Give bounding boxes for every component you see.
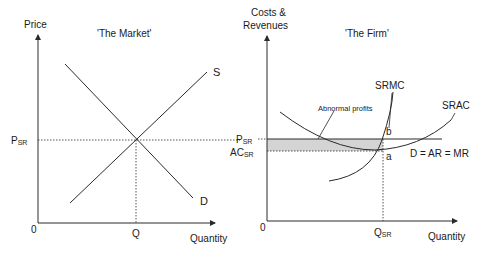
market-origin-label: 0 [31,224,37,235]
firm-y-axis-label-line2: Revenues [243,20,288,31]
srmc-label: SRMC [375,80,404,91]
market-title: 'The Market' [97,28,151,39]
supply-label: S [213,66,220,78]
demand-label: D [200,195,208,207]
srac-pointer [451,113,455,120]
market-quantity-label: Q [132,228,140,239]
supply-curve [70,72,207,203]
firm-title: 'The Firm' [345,28,389,39]
perfect-competition-diagram: Price 'The Market' S D PSR 0 Q Quantity … [0,0,482,257]
firm-ac-label: ACSR [230,147,254,158]
demand-curve [65,64,193,198]
point-a-label: a [386,151,392,162]
srmc-label-pointer [389,93,392,128]
demand-ar-mr-label: D = AR = MR [410,148,469,159]
market-price-label: PSR [11,135,27,146]
abnormal-profit-pointer [318,111,334,139]
market-x-axis-label: Quantity [190,233,227,244]
srac-label: SRAC [442,100,470,111]
firm-y-axis-label-line1: Costs & [251,7,286,18]
firm-origin-label: 0 [260,222,266,233]
market-panel: Price 'The Market' S D PSR 0 Q Quantity [11,19,240,244]
abnormal-profits-label: Abnormal profits [318,104,373,113]
firm-x-axis-label: Quantity [428,231,465,242]
firm-panel: Costs & Revenues 'The Firm' SRMC SRAC Ab… [230,7,470,242]
firm-quantity-label: QSR [374,227,392,238]
firm-price-label: PSR [236,134,252,145]
market-y-axis-label: Price [24,19,47,30]
